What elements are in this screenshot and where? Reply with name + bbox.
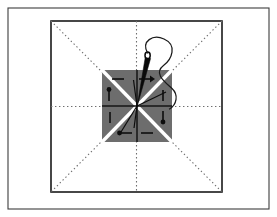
technical-diagram [0, 0, 277, 217]
figure-canvas [0, 0, 277, 217]
